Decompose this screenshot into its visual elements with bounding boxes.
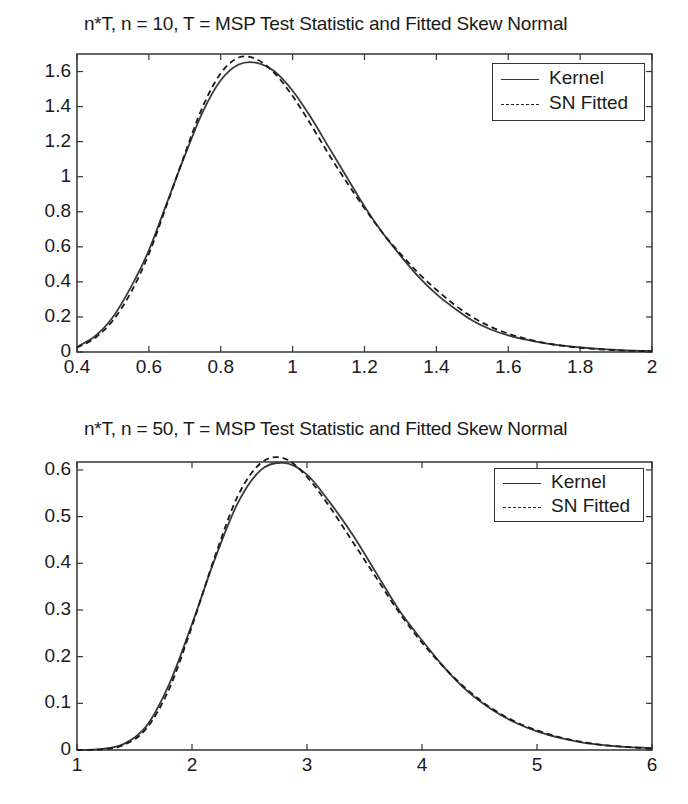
plot-2-legend: Kernel SN Fitted xyxy=(494,468,644,522)
plot-canvas xyxy=(0,0,688,804)
y-tick-label: 0 xyxy=(31,738,71,760)
legend-label-kernel: Kernel xyxy=(551,471,606,493)
y-tick-label: 0.6 xyxy=(31,458,71,480)
y-tick-label: 0.2 xyxy=(31,645,71,667)
dashed-line-swatch-icon xyxy=(503,507,541,508)
y-tick-label: 0.1 xyxy=(31,691,71,713)
y-tick-label: 0.5 xyxy=(31,505,71,527)
x-tick-label: 4 xyxy=(397,754,447,776)
y-tick-label: 0.4 xyxy=(31,551,71,573)
x-tick-label: 6 xyxy=(627,754,677,776)
legend-item-sn-fitted: SN Fitted xyxy=(495,495,643,521)
x-tick-label: 2 xyxy=(167,754,217,776)
y-tick-label: 0.3 xyxy=(31,598,71,620)
solid-line-swatch-icon xyxy=(503,483,541,484)
x-tick-label: 3 xyxy=(282,754,332,776)
legend-label-sn-fitted: SN Fitted xyxy=(551,495,630,517)
x-tick-label: 5 xyxy=(512,754,562,776)
figure: n*T, n = 10, T = MSP Test Statistic and … xyxy=(0,0,688,804)
legend-item-kernel: Kernel xyxy=(495,471,643,497)
